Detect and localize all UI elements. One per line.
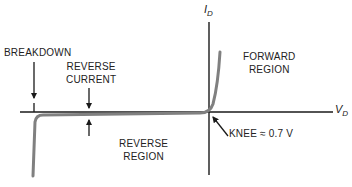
knee-arrow [213,117,228,136]
x-axis-label: VD [335,103,348,118]
knee-text: KNEE ≈ 0.7 V [229,128,293,139]
reverse-current-line2: CURRENT [66,73,116,86]
reverse-region-line2: REGION [119,150,168,163]
knee-label: KNEE ≈ 0.7 V [229,127,293,140]
forward-region-line2: REGION [243,63,296,76]
y-axis-label-sub: D [207,9,213,18]
diode-iv-diagram [0,0,352,187]
forward-region-label: FORWARD REGION [243,50,296,76]
y-axis-label: ID [204,3,213,18]
forward-region-line1: FORWARD [243,50,296,63]
reverse-current-label: REVERSE CURRENT [66,60,116,86]
breakdown-text: BREAKDOWN [4,47,71,58]
reverse-region-label: REVERSE REGION [119,137,168,163]
breakdown-label: BREAKDOWN [4,46,71,59]
reverse-current-line1: REVERSE [66,60,116,73]
reverse-region-line1: REVERSE [119,137,168,150]
x-axis-label-sub: D [342,109,348,118]
